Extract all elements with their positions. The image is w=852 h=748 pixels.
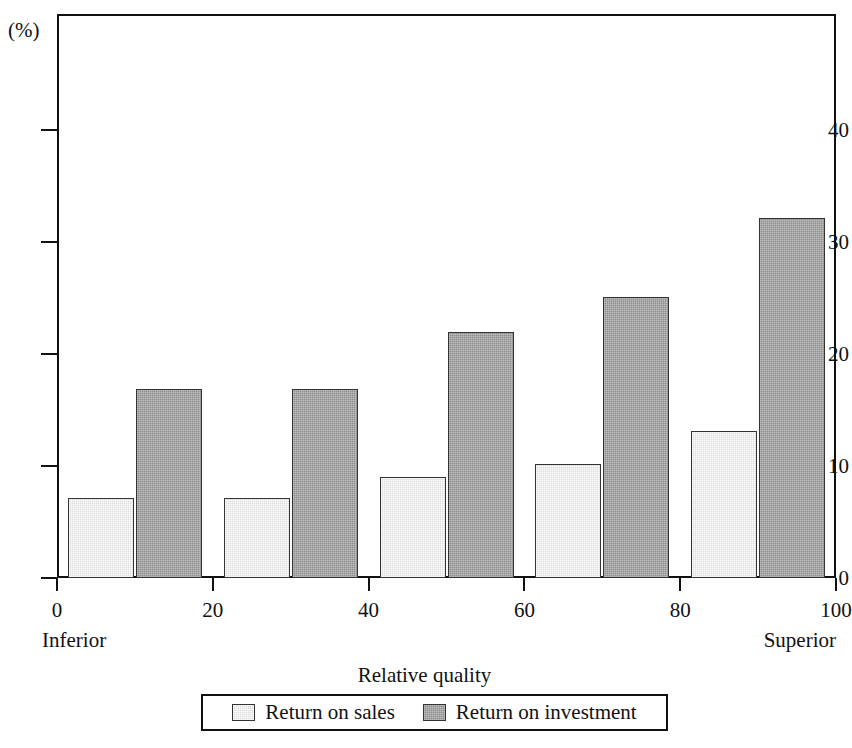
y-axis-tick-label: 20 xyxy=(815,344,849,365)
bar-return-on-investment-5 xyxy=(759,218,825,578)
y-axis-tick-label: 0 xyxy=(815,568,849,589)
bar-return-on-sales-5 xyxy=(691,431,757,578)
y-axis-tick xyxy=(41,241,57,243)
legend-label: Return on sales xyxy=(265,702,394,723)
y-axis-tick-label: 30 xyxy=(815,232,849,253)
y-axis-tick-label: 40 xyxy=(815,120,849,141)
y-axis-tick xyxy=(41,577,57,579)
x-axis-tick-label: 0 xyxy=(52,600,63,621)
x-axis-tick xyxy=(835,578,837,591)
x-axis-title: Relative quality xyxy=(0,665,849,686)
x-axis-tick-label: 100 xyxy=(820,600,852,621)
bar-return-on-investment-3 xyxy=(448,332,514,578)
bar-return-on-sales-4 xyxy=(535,464,601,578)
bar-return-on-sales-2 xyxy=(224,498,290,578)
chart-legend: Return on salesReturn on investment xyxy=(201,694,668,731)
x-axis-tick-label: 20 xyxy=(202,600,223,621)
legend-label: Return on investment xyxy=(456,702,637,723)
x-axis-tick xyxy=(212,578,214,591)
bar-return-on-sales-3 xyxy=(380,477,446,578)
bar-return-on-investment-1 xyxy=(136,389,202,578)
bar-return-on-investment-2 xyxy=(292,389,358,578)
y-axis-tick-label: 10 xyxy=(815,456,849,477)
x-axis-tick xyxy=(368,578,370,591)
y-axis-tick xyxy=(41,129,57,131)
dark-gray-swatch xyxy=(423,704,446,721)
legend-entry-2[interactable]: Return on investment xyxy=(423,702,637,723)
light-gray-swatch xyxy=(232,704,255,721)
x-axis-tick-label: 80 xyxy=(670,600,691,621)
bar-return-on-sales-1 xyxy=(68,498,134,578)
x-axis-right-caption: Superior xyxy=(764,630,836,651)
y-axis-unit-label: (%) xyxy=(8,20,39,41)
plot-area xyxy=(57,14,836,578)
bar-return-on-investment-4 xyxy=(603,297,669,578)
x-axis-tick-label: 60 xyxy=(514,600,535,621)
x-axis-tick xyxy=(56,578,58,591)
legend-entry-1[interactable]: Return on sales xyxy=(232,702,394,723)
x-axis-left-caption: Inferior xyxy=(42,630,106,651)
y-axis-tick xyxy=(41,353,57,355)
x-axis-tick xyxy=(679,578,681,591)
x-axis-tick xyxy=(523,578,525,591)
x-axis-tick-label: 40 xyxy=(358,600,379,621)
y-axis-tick xyxy=(41,465,57,467)
